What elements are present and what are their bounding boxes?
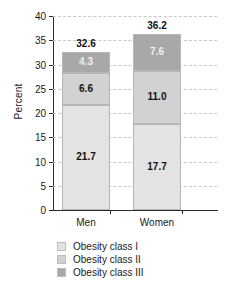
y-tick-label: 20 (35, 108, 46, 119)
legend: Obesity class IObesity class IIObesity c… (57, 240, 144, 279)
plot-area: 0510152025303540 21.76.64.332.617.711.07… (53, 16, 217, 210)
bar-segment-value: 4.3 (79, 57, 93, 67)
legend-swatch (57, 268, 66, 277)
bar-men[interactable]: 21.76.64.332.6 (62, 16, 110, 210)
bar-segment[interactable]: 21.7 (62, 105, 110, 210)
legend-swatch (57, 242, 66, 251)
legend-item[interactable]: Obesity class II (57, 253, 144, 266)
bar-segment-value: 21.7 (76, 152, 95, 162)
bar-segment-value: 17.7 (147, 162, 166, 172)
bar-segment-value: 11.0 (148, 92, 167, 102)
bar-segment[interactable]: 11.0 (133, 71, 181, 124)
y-tick-mark (49, 210, 53, 211)
x-tick-mark (110, 210, 111, 214)
bar-women[interactable]: 17.711.07.636.2 (133, 16, 181, 210)
y-tick-label: 35 (35, 35, 46, 46)
x-tick-mark (182, 210, 183, 214)
y-axis-title: Percent (13, 52, 24, 152)
y-tick-label: 0 (40, 205, 46, 216)
y-tick-mark (49, 186, 53, 187)
bar-segment[interactable]: 7.6 (133, 34, 181, 71)
legend-item[interactable]: Obesity class III (57, 266, 144, 279)
y-tick-mark (49, 162, 53, 163)
x-tick-label-men: Men (51, 217, 121, 228)
legend-swatch (57, 255, 66, 264)
legend-label: Obesity class III (73, 267, 144, 278)
bar-segment[interactable]: 4.3 (62, 52, 110, 73)
x-axis-line (53, 210, 218, 211)
y-tick-label: 5 (40, 180, 46, 191)
y-tick-label: 25 (35, 83, 46, 94)
y-tick-mark (49, 113, 53, 114)
y-tick-mark (49, 89, 53, 90)
y-tick-mark (49, 137, 53, 138)
bar-segment[interactable]: 6.6 (62, 73, 110, 105)
bar-total-value: 36.2 (133, 20, 181, 31)
bar-total-value: 32.6 (62, 38, 110, 49)
x-tick-label-women: Women (122, 217, 192, 228)
legend-label: Obesity class I (73, 241, 138, 252)
y-tick-mark (49, 65, 53, 66)
legend-item[interactable]: Obesity class I (57, 240, 144, 253)
y-tick-label: 30 (35, 59, 46, 70)
bar-segment[interactable]: 17.7 (133, 124, 181, 210)
bar-segment-value: 7.6 (150, 47, 164, 57)
y-tick-label: 10 (35, 156, 46, 167)
bar-segment-value: 6.6 (79, 84, 93, 94)
y-tick-mark (49, 40, 53, 41)
obesity-class-stacked-bar-chart: Percent 0510152025303540 21.76.64.332.61… (0, 0, 230, 287)
y-tick-mark (49, 16, 53, 17)
y-tick-label: 15 (35, 132, 46, 143)
y-tick-label: 40 (35, 11, 46, 22)
legend-label: Obesity class II (73, 254, 141, 265)
